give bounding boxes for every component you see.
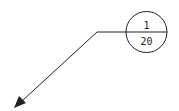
callout-diagram: 1 20 [0, 0, 179, 111]
arrowhead-icon [14, 96, 26, 108]
drawing-canvas: 1 20 [0, 0, 179, 111]
leader-diagonal-segment [22, 32, 97, 101]
balloon-top-text: 1 [143, 20, 149, 31]
balloon-bottom-text: 20 [140, 36, 152, 47]
